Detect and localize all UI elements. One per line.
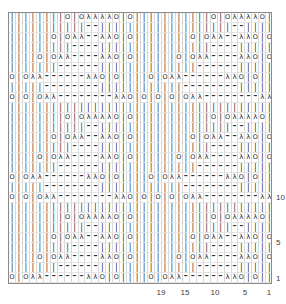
stitch-symbol: – <box>225 63 231 72</box>
yarn-over-cell: O <box>266 233 272 243</box>
stitch-symbol: | <box>197 143 203 152</box>
decrease-cell: λ <box>85 173 92 183</box>
stitch-symbol: | <box>23 113 29 122</box>
stitch-symbol: | <box>245 273 251 282</box>
decrease-cell: λ <box>238 233 245 243</box>
stitch-symbol: | <box>106 263 112 272</box>
yarn-over-cell: O <box>22 273 29 283</box>
stitch-symbol: | <box>176 83 182 92</box>
yarn-over-cell: O <box>64 133 71 143</box>
stitch-symbol: | <box>169 33 175 42</box>
knit-cell: | <box>224 123 231 133</box>
knit-cell: | <box>168 203 175 213</box>
stitch-symbol: | <box>162 243 168 252</box>
knit-cell: | <box>127 223 134 233</box>
stitch-symbol: – <box>218 43 224 52</box>
stitch-symbol: | <box>245 183 251 192</box>
stitch-symbol: – <box>225 233 231 242</box>
stitch-symbol: O <box>127 213 133 222</box>
purl-or-no-stitch-cell: – <box>71 63 78 73</box>
knit-cell: | <box>29 83 36 93</box>
decrease-cell: λ <box>238 33 245 43</box>
stitch-symbol: – <box>211 193 217 202</box>
decrease-cell: λ <box>57 153 64 163</box>
knit-cell: | <box>217 13 224 23</box>
knit-cell: | <box>43 263 50 273</box>
stitch-symbol: λ <box>37 173 43 182</box>
stitch-symbol: | <box>23 33 29 42</box>
knit-cell: | <box>43 143 50 153</box>
stitch-symbol: – <box>44 83 50 92</box>
stitch-symbol: | <box>238 183 244 192</box>
purl-or-no-stitch-cell: – <box>210 53 217 63</box>
knit-cell: | <box>189 63 196 73</box>
purl-or-no-stitch-cell: – <box>217 273 224 283</box>
knit-cell: | <box>134 73 141 83</box>
stitch-symbol: O <box>65 233 71 242</box>
stitch-symbol: | <box>169 213 175 222</box>
stitch-symbol: λ <box>99 53 105 62</box>
yarn-over-cell: O <box>127 213 134 223</box>
stitch-symbol: | <box>176 243 182 252</box>
stitch-symbol: – <box>79 83 85 92</box>
stitch-symbol: | <box>162 113 168 122</box>
decrease-cell: λ <box>106 113 113 123</box>
stitch-symbol: – <box>232 53 238 62</box>
stitch-symbol: O <box>183 193 189 202</box>
yarn-over-cell: O <box>189 33 196 43</box>
knit-cell: | <box>196 203 203 213</box>
stitch-symbol: – <box>85 233 91 242</box>
stitch-symbol: | <box>190 63 196 72</box>
purl-or-no-stitch-cell: – <box>224 243 231 253</box>
stitch-symbol: O <box>183 93 189 102</box>
stitch-symbol: | <box>238 83 244 92</box>
knit-cell: | <box>50 23 57 33</box>
stitch-symbol: | <box>120 253 126 262</box>
purl-or-no-stitch-cell: – <box>71 163 78 173</box>
stitch-symbol: | <box>141 133 147 142</box>
stitch-symbol: – <box>204 283 210 284</box>
stitch-symbol: – <box>211 263 217 272</box>
knit-cell: | <box>168 63 175 73</box>
stitch-symbol: | <box>155 13 161 22</box>
stitch-symbol: O <box>211 113 217 122</box>
knit-cell: | <box>155 43 162 53</box>
stitch-symbol: | <box>155 133 161 142</box>
stitch-symbol: | <box>266 83 272 92</box>
yarn-over-cell: O <box>266 153 272 163</box>
stitch-symbol: | <box>16 53 22 62</box>
knit-cell: | <box>113 243 120 253</box>
stitch-symbol: O <box>238 173 244 182</box>
stitch-symbol: – <box>238 123 244 132</box>
stitch-symbol: – <box>85 143 91 152</box>
stitch-symbol: O <box>266 133 272 142</box>
knit-cell: | <box>120 253 127 263</box>
stitch-symbol: | <box>183 243 189 252</box>
stitch-symbol: | <box>120 133 126 142</box>
stitch-symbol: | <box>51 23 57 32</box>
knit-cell: | <box>210 103 217 113</box>
stitch-symbol: | <box>23 203 29 212</box>
chart-row: ||||O|Oλλ––––λλO|O||||||O|Oλλ––––λλO|O||… <box>9 53 272 63</box>
purl-or-no-stitch-cell: – <box>78 63 85 73</box>
stitch-symbol: O <box>190 153 196 162</box>
purl-or-no-stitch-cell: – <box>210 73 217 83</box>
stitch-symbol: λ <box>245 213 251 222</box>
stitch-symbol: | <box>16 93 22 102</box>
knit-cell: | <box>127 283 134 285</box>
stitch-symbol: | <box>9 223 15 232</box>
stitch-symbol: | <box>44 13 50 22</box>
knit-cell: | <box>141 53 148 63</box>
stitch-symbol: | <box>9 183 15 192</box>
knit-cell: | <box>168 163 175 173</box>
knit-cell: | <box>168 283 175 285</box>
stitch-symbol: λ <box>99 213 105 222</box>
knit-cell: | <box>29 123 36 133</box>
stitch-symbol: | <box>37 123 43 132</box>
stitch-symbol: | <box>183 113 189 122</box>
knit-cell: | <box>106 73 113 83</box>
stitch-symbol: | <box>148 13 154 22</box>
stitch-symbol: | <box>266 223 272 232</box>
stitch-symbol: | <box>266 113 272 122</box>
stitch-symbol: | <box>266 173 272 182</box>
